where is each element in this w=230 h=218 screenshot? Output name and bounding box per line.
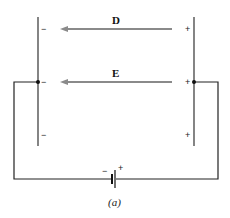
right-junction (192, 80, 196, 84)
d-label: D (112, 14, 120, 26)
right-sign-1: + (185, 24, 190, 34)
left-junction (36, 80, 40, 84)
right-sign-3: + (185, 130, 190, 140)
battery-neg-sign: − (102, 166, 107, 176)
right-sign-2: + (185, 77, 190, 87)
battery-pos-sign: + (118, 163, 123, 173)
capacitor-diagram: − + D E − − − + + + (a) (0, 0, 230, 218)
left-sign-3: − (41, 130, 46, 140)
caption: (a) (108, 196, 121, 209)
left-sign-1: − (41, 24, 46, 34)
d-arrowhead-icon (60, 26, 68, 32)
right-wire (116, 82, 218, 179)
left-wire (14, 82, 112, 179)
left-sign-2: − (41, 77, 46, 87)
e-label: E (112, 67, 119, 79)
e-arrowhead-icon (60, 79, 68, 85)
